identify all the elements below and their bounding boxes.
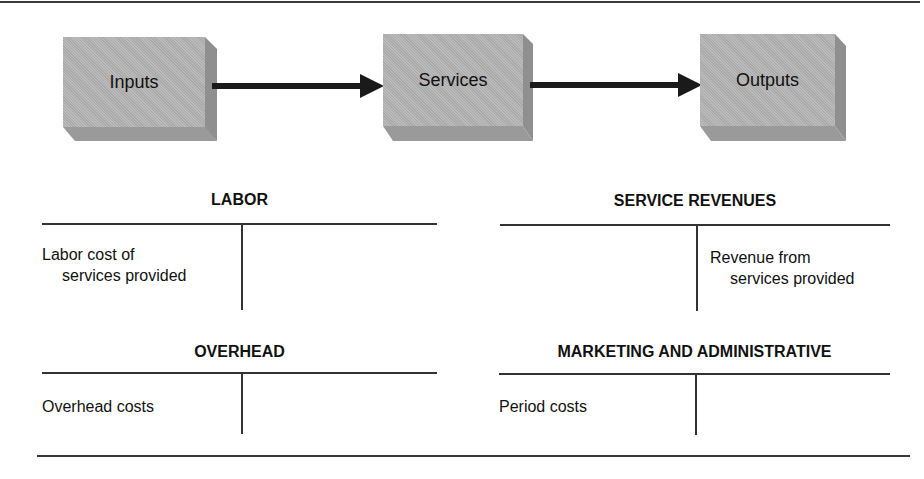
account-title: LABOR	[42, 191, 437, 209]
debit-entry: Period costs	[499, 396, 587, 417]
inputs-box: Inputs	[63, 37, 219, 141]
services-box: Services	[383, 34, 535, 141]
top-rule	[0, 1, 920, 3]
account-title: MARKETING AND ADMINISTRATIVE	[499, 343, 890, 361]
arrow-right-icon	[212, 73, 387, 99]
inputs-label: Inputs	[109, 72, 158, 93]
t-account-vertical-line	[241, 372, 243, 434]
t-account-vertical-line	[695, 373, 697, 435]
t-account-horizontal-line	[42, 223, 437, 225]
services-label: Services	[418, 70, 487, 91]
arrow-right-icon	[530, 72, 705, 98]
t-account-vertical-line	[696, 224, 698, 311]
account-title: SERVICE REVENUES	[500, 192, 890, 210]
outputs-label: Outputs	[736, 70, 799, 91]
credit-entry: Revenue from services provided	[710, 247, 855, 289]
outputs-box: Outputs	[700, 34, 848, 141]
t-account-horizontal-line	[500, 224, 890, 226]
t-account-horizontal-line	[42, 372, 437, 374]
t-account-vertical-line	[241, 223, 243, 310]
debit-entry: Labor cost of services provided	[42, 244, 187, 286]
debit-entry: Overhead costs	[42, 396, 154, 417]
account-title: OVERHEAD	[42, 343, 437, 361]
bottom-rule	[37, 455, 910, 457]
